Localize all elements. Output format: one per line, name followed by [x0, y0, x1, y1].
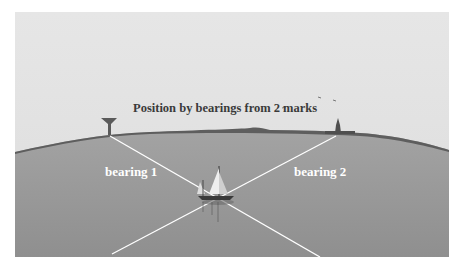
seascape-illustration: [15, 12, 449, 257]
sea: [15, 130, 449, 257]
bearing-1-label: bearing 1: [105, 164, 157, 180]
bearing-2-label: bearing 2: [294, 164, 346, 180]
figure-title: Position by bearings from 2 marks: [133, 101, 317, 116]
illustration-frame: Position by bearings from 2 marks bearin…: [15, 12, 449, 257]
